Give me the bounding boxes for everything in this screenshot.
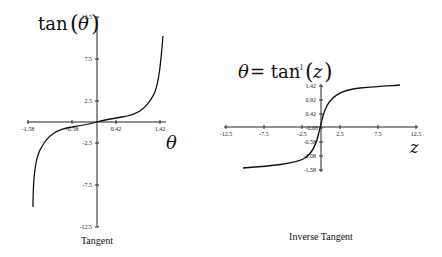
atan-ytick: 0.92: [306, 97, 317, 103]
atan-xtick: -7.5: [259, 131, 269, 137]
atan-caption: Inverse Tangent: [289, 231, 353, 242]
atan-ylabel-arg: z: [312, 61, 323, 82]
atan-ylabel-theta: θ: [238, 61, 249, 82]
atan-ytick: -1.58: [304, 167, 317, 173]
atan-xtick: 2.5: [336, 131, 344, 137]
tangent-ytick: -12.5: [80, 224, 93, 230]
inverse-tangent-chart: 1.42 0.92 0.42 -0.08 -0.58 -1.08 -1.58 -…: [220, 59, 422, 242]
tangent-xtick: -1.58: [22, 126, 35, 132]
tangent-ytick: -7.5: [83, 182, 93, 188]
tangent-xtick: 1.42: [155, 126, 166, 132]
tangent-chart: 12.5 7.5 2.5 -2.5 -7.5 -12.5 -1.58 -0.58…: [22, 11, 177, 246]
atan-ytick: 0.42: [306, 111, 317, 117]
tangent-ylabel-paren-close: ): [91, 11, 100, 36]
atan-xlabel: z: [409, 138, 419, 157]
atan-xtick: 7.5: [374, 131, 382, 137]
atan-xtick: -2.5: [297, 131, 307, 137]
tangent-caption: Tangent: [81, 235, 113, 246]
atan-xtick: -12.5: [220, 131, 233, 137]
figure: 12.5 7.5 2.5 -2.5 -7.5 -12.5 -1.58 -0.58…: [0, 0, 442, 257]
atan-ytick: -0.08: [306, 125, 319, 131]
tangent-ylabel-fn: tan: [38, 13, 68, 34]
tangent-xlabel: θ: [166, 132, 177, 153]
tangent-ytick: 7.5: [85, 56, 93, 62]
tangent-ytick: 2.5: [85, 98, 93, 104]
tangent-ytick: -2.5: [83, 140, 93, 146]
tangent-ylabel-arg: θ: [78, 13, 89, 34]
atan-ytick: -0.58: [304, 139, 317, 145]
atan-xtick: 12.5: [411, 131, 422, 137]
tangent-xtick: 0.42: [111, 126, 122, 132]
atan-ylabel-paren-close: ): [324, 59, 333, 84]
atan-ylabel-superscript: −1: [295, 63, 304, 72]
atan-ylabel-fn: = tan: [250, 61, 301, 82]
